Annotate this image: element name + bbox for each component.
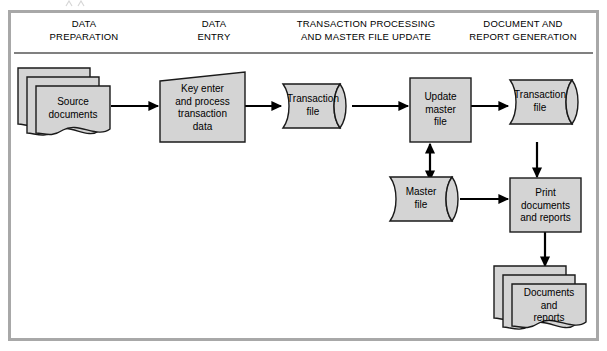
node-label-master-file: Master file bbox=[392, 186, 450, 211]
node-label-key-enter-process: Key enter and process transaction data bbox=[161, 83, 244, 133]
node-label-documents-and-reports: Documents and reports bbox=[514, 287, 584, 325]
node-label-source-documents: Source documents bbox=[40, 96, 106, 121]
node-label-print-documents-reports: Print documents and reports bbox=[510, 187, 581, 225]
node-label-transaction-file-2: Transaction file bbox=[511, 89, 569, 114]
node-label-transaction-file-1: Transaction file bbox=[284, 93, 342, 118]
node-label-update-master-file: Update master file bbox=[410, 91, 471, 129]
flowchart-canvas: DATA PREPARATION DATA ENTRY TRANSACTION … bbox=[0, 0, 607, 351]
